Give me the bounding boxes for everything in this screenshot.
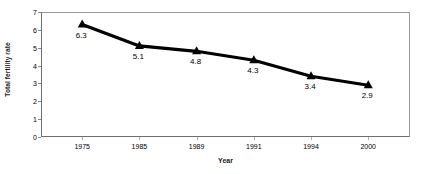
x-axis-tick-mark [368,137,369,140]
y-axis-tick-label: 0 [16,134,37,141]
y-axis-tick-label: 5 [16,44,37,51]
x-axis-tick-mark [254,137,255,140]
data-point-label: 4.8 [190,58,201,66]
x-axis-tick-mark [311,137,312,140]
x-axis-tick-label: 1985 [132,143,148,151]
data-point-label: 4.3 [247,67,258,75]
data-point-marker [78,20,87,28]
x-axis-tick-label: 2000 [360,143,376,151]
x-axis-tick-label: 1991 [246,143,262,151]
fertility-rate-line-chart: Total fertility rate 01234567 6.35.14.84… [0,0,430,174]
x-axis-tick-label: 1994 [303,143,319,151]
data-point-label: 3.4 [304,83,315,91]
data-point-label: 5.1 [133,53,144,61]
y-axis-tick-label: 1 [16,116,37,123]
x-axis-tick-mark [82,137,83,140]
y-axis-tick-mark [38,137,41,138]
y-axis-title: Total fertility rate [0,0,14,138]
series-polyline [82,25,368,86]
data-point-label: 2.9 [362,92,373,100]
x-axis-tick-label: 1989 [189,143,205,151]
y-axis-tick-label: 4 [16,62,37,69]
data-point-label: 6.3 [76,32,87,40]
y-axis-tick-label: 7 [16,9,37,16]
x-axis-tick-label: 1975 [74,143,90,151]
y-axis-title-text: Total fertility rate [4,42,11,96]
y-axis-tick-label: 3 [16,80,37,87]
x-axis-tick-mark [197,137,198,140]
y-axis-tick-labels: 01234567 [16,12,37,137]
y-axis-tick-label: 2 [16,98,37,105]
y-axis-tick-label: 6 [16,26,37,33]
x-axis-title: Year [41,157,410,164]
series-line-and-markers [41,12,410,137]
x-axis-tick-mark [139,137,140,140]
